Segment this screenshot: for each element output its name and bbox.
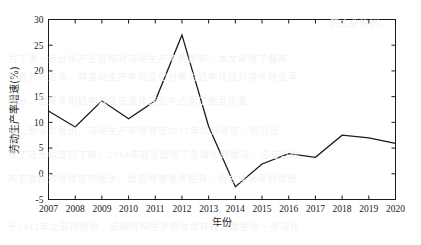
x-tick-label: 2013 <box>199 204 218 214</box>
bleed-line-5: 现了较大幅度的下降，2014年甚至出现了负增长的情况，这与当时 <box>8 148 300 161</box>
bleed-line-2: 份额分析方法，将劳动生产率的变化分解为结构效应与增长效应两 <box>8 70 298 83</box>
bleed-line-1: 为了进一步分析产业结构对劳动生产率的影响，本文采用了偏离 <box>8 52 288 65</box>
x-tick-label: 2020 <box>386 204 405 214</box>
bleed-line-3: 部分，结果表明结构效应在总体变化中占据了相当比重。 <box>8 94 258 107</box>
x-tick-label: 2012 <box>172 204 191 214</box>
x-tick-label: 2009 <box>92 204 111 214</box>
bleed-line-4: 从上图可以看出，劳动生产率增速在2012年达到峰值，随后出 <box>8 124 280 137</box>
x-tick-label: 2018 <box>333 204 352 214</box>
x-tick-label: 2011 <box>146 204 165 214</box>
y-tick-label: 25 <box>34 41 44 51</box>
x-tick-label: 2019 <box>359 204 378 214</box>
x-tick-label: 2017 <box>306 204 325 214</box>
x-tick-label: 2016 <box>279 204 298 214</box>
x-tick-label: 2010 <box>119 204 138 214</box>
x-tick-label: 2007 <box>39 204 58 214</box>
x-tick-label: 2014 <box>226 204 245 214</box>
bleed-line-0: 的主要原因。 <box>330 16 390 29</box>
x-tick-label: 2015 <box>253 204 272 214</box>
y-tick-label: 30 <box>34 15 44 25</box>
x-tick-label: 2008 <box>66 204 85 214</box>
chart-figure: 的主要原因。 为了进一步分析产业结构对劳动生产率的影响，本文采用了偏离 份额分析… <box>0 0 421 245</box>
bleed-line-7: 于2012年之前的阶段，说明结构性矛盾依然存在，需要进一步深化 <box>8 220 300 233</box>
bleed-line-6: 的宏观经济环境密切相关。此后增速逐步回升，但总体水平仍然低 <box>8 172 298 185</box>
line-chart-svg: -5051015202530 2007200820092010201120122… <box>0 0 421 245</box>
